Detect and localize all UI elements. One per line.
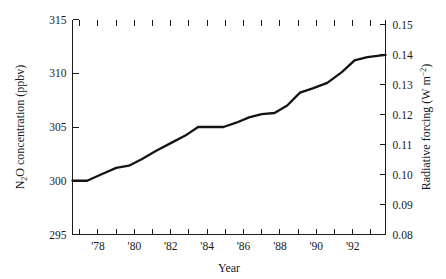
y-left-title-lead: N — [13, 180, 27, 189]
y-tick-label: 315 — [49, 14, 67, 26]
y-left-title-main: O concentration (ppbv) — [13, 65, 27, 177]
x-tick-label: '88 — [273, 240, 287, 252]
y-right-tick-label: 0.13 — [393, 79, 413, 91]
x-tick-label: '78 — [91, 240, 105, 252]
x-tick-label: '82 — [164, 240, 178, 252]
y-tick-label: 295 — [49, 229, 67, 241]
y-tick-label: 310 — [49, 67, 67, 79]
svg-text:N2O concentration (ppbv): N2O concentration (ppbv) — [13, 65, 29, 190]
y-left-tick-labels: 295300305310315 — [49, 14, 67, 241]
y-right-title-tail: ) — [419, 64, 433, 68]
x-axis-title: Year — [218, 261, 240, 275]
y-right-title-sup: −2 — [419, 68, 428, 77]
y-right-tick-label: 0.12 — [393, 109, 413, 121]
y-left-tick-marks — [73, 20, 79, 235]
y-right-tick-label: 0.14 — [393, 49, 413, 61]
y-tick-label: 300 — [49, 175, 67, 187]
top-tick-marks — [80, 20, 371, 26]
y-axis-left-title: N2O concentration (ppbv) — [13, 65, 29, 190]
x-tick-label: '92 — [346, 240, 360, 252]
y-right-tick-label: 0.09 — [393, 199, 413, 211]
y-right-tick-labels: 0.080.090.100.110.120.130.140.15 — [393, 19, 413, 241]
x-tick-label: '86 — [237, 240, 251, 252]
y-right-tick-label: 0.11 — [393, 139, 413, 151]
y-tick-label: 305 — [49, 121, 67, 133]
line-chart-svg: '78'80'82'84'86'88'90'92 295300305310315… — [0, 0, 446, 279]
n2o-concentration-line — [73, 55, 386, 181]
y-right-tick-label: 0.10 — [393, 169, 413, 181]
axis-frame — [73, 20, 386, 235]
y-right-title-lead: Radiative forcing (W m — [419, 76, 433, 191]
x-tick-label: '80 — [128, 240, 142, 252]
x-tick-label: '84 — [200, 240, 214, 252]
y-right-tick-label: 0.15 — [393, 19, 413, 31]
y-right-tick-label: 0.08 — [393, 229, 413, 241]
chart-figure: '78'80'82'84'86'88'90'92 295300305310315… — [0, 0, 446, 279]
x-tick-marks — [80, 229, 371, 235]
svg-text:Radiative forcing (W m−2): Radiative forcing (W m−2) — [419, 64, 433, 191]
x-tick-labels: '78'80'82'84'86'88'90'92 — [91, 240, 360, 252]
y-axis-right-title: Radiative forcing (W m−2) — [419, 64, 433, 191]
x-tick-label: '90 — [310, 240, 324, 252]
